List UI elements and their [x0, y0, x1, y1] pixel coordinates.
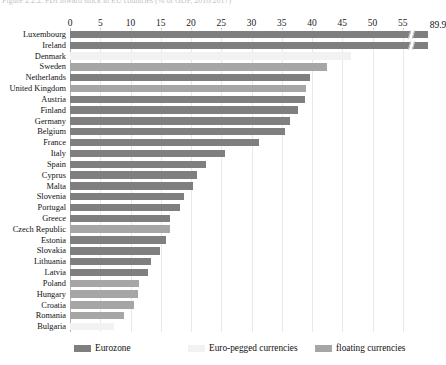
bar-eurozone[interactable] — [70, 204, 180, 211]
bar-row[interactable] — [70, 42, 418, 49]
category-label: Sweden — [39, 62, 66, 71]
bar-row[interactable] — [70, 161, 418, 168]
bar-floating[interactable] — [70, 63, 327, 70]
bar-row[interactable] — [70, 215, 418, 222]
legend-item-floating[interactable]: floating currencies — [315, 341, 405, 355]
bar-floating[interactable] — [70, 301, 134, 308]
legend-label: floating currencies — [336, 343, 405, 353]
bar-row[interactable] — [70, 204, 418, 211]
bar-row[interactable] — [70, 182, 418, 189]
bar-floating[interactable] — [70, 225, 170, 232]
bar-row[interactable]: 89.9 — [70, 31, 418, 38]
category-label: Netherlands — [26, 73, 66, 82]
legend-label: Eurozone — [95, 343, 131, 353]
category-label: Hungary — [37, 290, 66, 299]
bar-row[interactable] — [70, 225, 418, 232]
category-label: Denmark — [35, 52, 66, 61]
category-label: Romania — [36, 311, 66, 320]
bar-floating[interactable] — [70, 312, 124, 319]
bar-row[interactable] — [70, 117, 418, 124]
category-label: Czech Republic — [13, 225, 66, 234]
category-label: Malta — [46, 182, 66, 191]
bar-eurozone[interactable] — [70, 96, 305, 103]
legend-label: Euro-pegged currencies — [209, 343, 298, 353]
category-label: France — [43, 138, 66, 147]
category-label: Luxembourg — [23, 30, 66, 39]
bar-row[interactable] — [70, 63, 418, 70]
bar-value-label: 89.9 — [430, 20, 446, 31]
category-label: Austria — [41, 95, 66, 104]
chart-legend: EurozoneEuro-pegged currenciesfloating c… — [70, 341, 420, 355]
bar-eurozone[interactable] — [70, 42, 428, 49]
legend-item-euro-pegged[interactable]: Euro-pegged currencies — [188, 341, 298, 355]
bar-euro-pegged[interactable] — [70, 323, 114, 330]
bar-row[interactable] — [70, 96, 418, 103]
category-label: Greece — [42, 214, 66, 223]
bar-floating[interactable] — [70, 85, 306, 92]
bar-eurozone[interactable] — [70, 182, 193, 189]
bar-row[interactable] — [70, 301, 418, 308]
bar-eurozone[interactable] — [70, 247, 160, 254]
category-label: Italy — [51, 149, 66, 158]
category-label: Poland — [43, 279, 66, 288]
category-label: Portugal — [38, 203, 66, 212]
bar-floating[interactable] — [70, 290, 138, 297]
category-label: Croatia — [41, 301, 66, 310]
legend-item-eurozone[interactable]: Eurozone — [74, 341, 131, 355]
bar-row[interactable] — [70, 74, 418, 81]
bar-row[interactable] — [70, 312, 418, 319]
bar-row[interactable] — [70, 193, 418, 200]
category-label: United Kingdom — [9, 84, 66, 93]
category-label: Slovakia — [37, 246, 66, 255]
bar-floating[interactable] — [70, 280, 139, 287]
bar-eurozone[interactable] — [70, 236, 166, 243]
legend-swatch-eurozone — [74, 345, 91, 352]
bar-eurozone[interactable] — [70, 269, 148, 276]
bar-row[interactable] — [70, 323, 418, 330]
bar-eurozone[interactable] — [70, 161, 206, 168]
bar-row[interactable] — [70, 106, 418, 113]
bar-row[interactable] — [70, 85, 418, 92]
bar-row[interactable] — [70, 171, 418, 178]
bar-eurozone[interactable] — [70, 193, 184, 200]
bar-row[interactable] — [70, 269, 418, 276]
bar-eurozone[interactable] — [70, 106, 298, 113]
bar-eurozone[interactable] — [70, 31, 428, 38]
bar-row[interactable] — [70, 280, 418, 287]
bar-eurozone[interactable] — [70, 258, 151, 265]
category-label: Estonia — [41, 236, 66, 245]
bar-row[interactable] — [70, 236, 418, 243]
bar-eurozone[interactable] — [70, 139, 259, 146]
bar-row[interactable] — [70, 139, 418, 146]
category-label: Finland — [40, 106, 66, 115]
bar-row[interactable] — [70, 150, 418, 157]
bar-row[interactable] — [70, 128, 418, 135]
bar-eurozone[interactable] — [70, 150, 225, 157]
bar-euro-pegged[interactable] — [70, 52, 351, 59]
x-axis: 0510152025303540455055 — [70, 17, 418, 29]
bar-eurozone[interactable] — [70, 74, 310, 81]
category-label: Slovenia — [37, 192, 66, 201]
category-label: Lithuania — [34, 257, 66, 266]
category-label: Latvia — [45, 268, 66, 277]
bar-row[interactable] — [70, 258, 418, 265]
bar-row[interactable] — [70, 52, 418, 59]
legend-swatch-euro-pegged — [188, 345, 205, 352]
plot-area: 89.9 — [70, 29, 418, 332]
category-label: Spain — [47, 160, 66, 169]
bar-eurozone[interactable] — [70, 171, 197, 178]
category-axis-labels: LuxembourgIrelandDenmarkSwedenNetherland… — [0, 29, 68, 332]
bar-eurozone[interactable] — [70, 128, 285, 135]
category-label: Cyprus — [42, 171, 66, 180]
category-label: Ireland — [42, 41, 66, 50]
category-label: Bulgaria — [37, 322, 66, 331]
category-label: Germany — [35, 117, 66, 126]
category-label: Belgium — [37, 127, 66, 136]
bar-eurozone[interactable] — [70, 117, 290, 124]
bar-row[interactable] — [70, 247, 418, 254]
bar-eurozone[interactable] — [70, 215, 170, 222]
bar-row[interactable] — [70, 290, 418, 297]
figure-caption: Figure 2.2.2. FDI inward stock in EU cou… — [2, 0, 426, 6]
legend-swatch-floating — [315, 345, 332, 352]
